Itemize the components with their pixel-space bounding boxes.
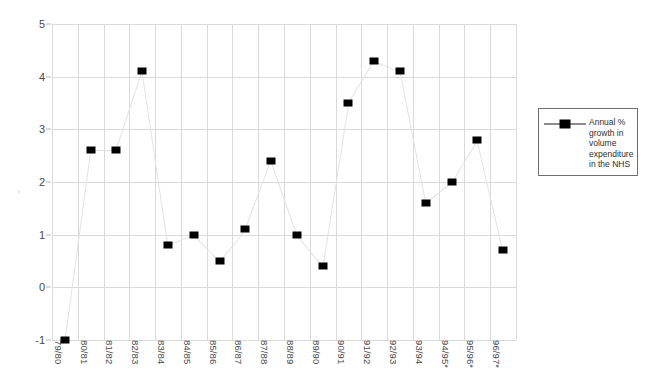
x-axis-tick-label: 86/87: [233, 340, 244, 364]
y-axis-tick-label: 3: [39, 123, 45, 135]
data-point-marker[interactable]: [164, 242, 173, 249]
series-connector-line: [245, 161, 272, 230]
legend-square-marker-icon: [560, 120, 571, 129]
y-axis-tick-label: 5: [39, 18, 45, 30]
chart-legend: Annual % growth in volume expenditure in…: [538, 108, 638, 176]
x-axis-tick-label: 80/81: [79, 340, 90, 364]
data-point-marker[interactable]: [499, 247, 508, 254]
data-point-marker[interactable]: [344, 100, 353, 107]
data-point-marker[interactable]: [189, 231, 198, 238]
x-axis-tick-label: 95/96*: [465, 340, 476, 368]
data-point-marker[interactable]: [396, 68, 405, 75]
x-axis-tick-label: 83/84: [156, 340, 167, 364]
data-point-marker[interactable]: [318, 263, 327, 270]
x-axis-tick-label: 82/83: [130, 340, 141, 364]
data-point-marker[interactable]: [421, 200, 430, 207]
axis-edge-artifact: ,: [18, 186, 20, 193]
series-connector-line: [400, 72, 427, 204]
data-point-marker[interactable]: [447, 179, 456, 186]
x-axis-tick-label: 89/90: [311, 340, 322, 364]
x-axis-tick-label: 96/97*: [491, 340, 502, 368]
x-axis-tick-label: 85/86: [208, 340, 219, 364]
x-axis-tick-label: 87/88: [259, 340, 270, 364]
x-axis-tick-label: 84/85: [182, 340, 193, 364]
data-series: [52, 24, 516, 340]
x-axis-gridline: [516, 24, 517, 340]
x-axis-tick-label: 90/91: [336, 340, 347, 364]
data-point-marker[interactable]: [267, 157, 276, 164]
x-axis-tick-label: 81/82: [104, 340, 115, 364]
plot-area: 543210-1 79/8080/8181/8282/8383/8484/858…: [52, 24, 516, 340]
series-connector-line: [271, 161, 298, 235]
data-point-marker[interactable]: [112, 147, 121, 154]
x-axis-tick-label: 92/93: [388, 340, 399, 364]
y-axis-tick-label: 2: [39, 176, 45, 188]
data-point-marker[interactable]: [292, 231, 301, 238]
y-axis-tick-mark: [46, 24, 51, 25]
y-axis-tick-mark: [46, 287, 51, 288]
y-axis-tick-label: 0: [39, 281, 45, 293]
legend-marker-key: [544, 118, 586, 130]
series-connector-line: [477, 140, 504, 251]
y-axis-tick-label: -1: [35, 334, 45, 346]
series-connector-line: [451, 140, 478, 183]
x-axis-tick-label: 93/94: [414, 340, 425, 364]
x-axis-tick-label: 91/92: [362, 340, 373, 364]
series-connector-line: [64, 151, 91, 341]
data-point-marker[interactable]: [60, 337, 69, 344]
y-axis-tick-mark: [46, 182, 51, 183]
y-axis-tick-label: 4: [39, 71, 45, 83]
x-axis-tick-label: 94/95*: [440, 340, 451, 368]
series-connector-line: [322, 103, 349, 266]
y-axis-tick-label: 1: [39, 229, 45, 241]
data-point-marker[interactable]: [370, 57, 379, 64]
data-point-marker[interactable]: [86, 147, 95, 154]
x-axis-tick-label: 88/89: [285, 340, 296, 364]
y-axis-tick-mark: [46, 129, 51, 130]
legend-entry-label: Annual % growth in volume expenditure in…: [589, 117, 633, 170]
y-axis-tick-mark: [46, 340, 51, 341]
y-axis-tick-mark: [46, 76, 51, 77]
data-point-marker[interactable]: [241, 226, 250, 233]
data-point-marker[interactable]: [473, 136, 482, 143]
data-point-marker[interactable]: [138, 68, 147, 75]
series-connector-line: [116, 72, 143, 151]
series-connector-line: [142, 72, 169, 246]
x-axis-tick-label: 79/80: [53, 340, 64, 364]
y-axis-tick-mark: [46, 234, 51, 235]
series-connector-line: [348, 61, 375, 104]
data-point-marker[interactable]: [215, 258, 224, 265]
